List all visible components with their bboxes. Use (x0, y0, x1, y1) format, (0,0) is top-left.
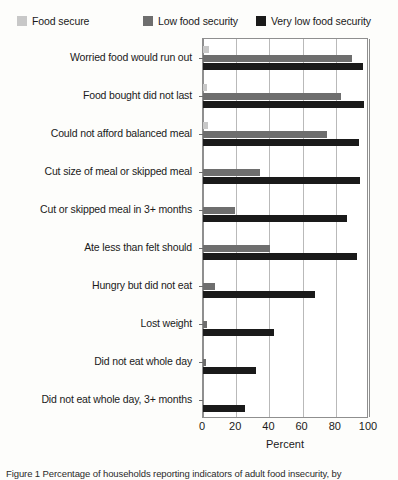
legend-item-very-low-food-security: Very low food security (256, 13, 371, 29)
bar (203, 93, 341, 100)
bar (203, 321, 207, 328)
legend-label-low-food-security: Low food security (158, 15, 238, 27)
bar (203, 207, 235, 214)
y-axis-category-label: Food bought did not last (83, 89, 192, 101)
x-axis-tick-label: 100 (359, 420, 377, 433)
chart-legend: Food secure Low food security Very low f… (0, 13, 398, 31)
bar (203, 359, 206, 366)
food-insecurity-bar-chart: Food secure Low food security Very low f… (0, 0, 398, 480)
legend-swatch-food-secure (17, 16, 27, 26)
bar (203, 55, 352, 62)
gridline (369, 39, 370, 417)
bar (203, 131, 327, 138)
bar (203, 139, 359, 146)
bar (203, 177, 360, 184)
bar (203, 101, 364, 108)
bar (203, 46, 209, 53)
y-axis-category-label: Could not afford balanced meal (51, 127, 192, 139)
bar (203, 84, 207, 91)
x-axis-tick-label: 60 (295, 420, 307, 433)
y-axis-category-label: Did not eat whole day, 3+ months (41, 393, 192, 405)
y-axis-category-label: Ate less than felt should (84, 241, 192, 253)
y-axis-category-label: Hungry but did not eat (92, 279, 192, 291)
bar (203, 215, 347, 222)
legend-swatch-low-food-security (143, 16, 153, 26)
x-axis-title: Percent (202, 438, 368, 451)
bar (203, 253, 357, 260)
bar (203, 63, 363, 70)
x-axis-tick-label: 0 (199, 420, 205, 433)
legend-label-food-secure: Food secure (32, 15, 89, 27)
y-axis-category-label: Cut or skipped meal in 3+ months (40, 203, 192, 215)
bar (203, 122, 208, 129)
x-axis-tick-label: 80 (329, 420, 341, 433)
x-axis-tick-label: 40 (262, 420, 274, 433)
bar (203, 291, 315, 298)
bar (203, 405, 245, 412)
legend-item-food-secure: Food secure (17, 13, 89, 29)
legend-swatch-very-low-food-security (256, 16, 266, 26)
y-axis-category-labels: Worried food would run outFood bought di… (0, 36, 198, 426)
y-axis-category-label: Lost weight (141, 317, 192, 329)
plot-wrapper: Worried food would run outFood bought di… (0, 36, 398, 426)
y-axis-category-label: Did not eat whole day (94, 355, 192, 367)
figure-caption: Figure 1 Percentage of households report… (6, 468, 394, 480)
y-axis-category-label: Worried food would run out (70, 51, 192, 63)
y-axis-tick-mark (199, 400, 203, 401)
bar (203, 329, 274, 336)
plot-area (202, 38, 368, 418)
legend-item-low-food-security: Low food security (143, 13, 238, 29)
legend-label-very-low-food-security: Very low food security (271, 15, 371, 27)
bar (203, 283, 215, 290)
bar (203, 245, 270, 252)
bar (203, 367, 256, 374)
y-axis-category-label: Cut size of meal or skipped meal (44, 165, 192, 177)
x-axis-tick-label: 20 (229, 420, 241, 433)
bar (203, 169, 260, 176)
